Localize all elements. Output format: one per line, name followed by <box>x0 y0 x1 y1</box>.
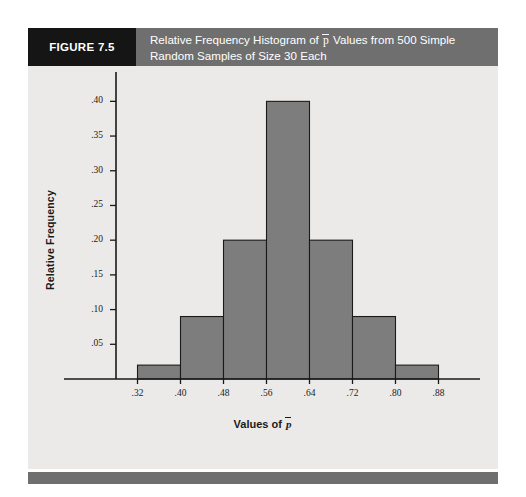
figure-caption-line1-post: Values from 500 Simple <box>330 33 455 46</box>
p-bar-symbol-title: p <box>322 34 330 47</box>
y-tick-label: .05 <box>75 338 103 348</box>
x-axis-title: Values of p <box>28 418 498 430</box>
figure-number-badge: FIGURE 7.5 <box>28 28 136 66</box>
y-tick-label: .30 <box>75 165 103 175</box>
bars-group <box>138 101 439 379</box>
y-tick-label: .20 <box>75 234 103 244</box>
y-tick-label: .15 <box>75 269 103 279</box>
histogram-bar <box>267 101 310 379</box>
histogram-bar <box>396 365 439 379</box>
figure-caption: Relative Frequency Histogram of p Values… <box>136 28 498 66</box>
p-bar-symbol-axis: p <box>285 418 293 430</box>
x-tick-label: .88 <box>424 388 454 398</box>
histogram-bar <box>138 365 181 379</box>
figure-card: FIGURE 7.5 Relative Frequency Histogram … <box>28 28 498 469</box>
y-tick-label: .35 <box>75 130 103 140</box>
x-tick-label: .64 <box>295 388 325 398</box>
x-tick-label: .40 <box>166 388 196 398</box>
histogram-bar <box>224 240 267 379</box>
y-tick-label: .40 <box>75 95 103 105</box>
x-axis-title-text: Values of <box>234 418 282 430</box>
y-tick-label: .10 <box>75 304 103 314</box>
figure-header: FIGURE 7.5 Relative Frequency Histogram … <box>28 28 498 66</box>
figure-caption-line2: Random Samples of Size 30 Each <box>150 49 327 62</box>
histogram-bar <box>353 317 396 379</box>
histogram-bar <box>310 240 353 379</box>
y-tick-label: .25 <box>75 199 103 209</box>
x-tick-label: .80 <box>381 388 411 398</box>
figure-footer-bar <box>28 472 498 484</box>
histogram-svg <box>28 66 498 469</box>
figure-caption-line1-pre: Relative Frequency Histogram of <box>150 33 322 46</box>
x-tick-label: .32 <box>123 388 153 398</box>
histogram-plot: Relative Frequency .05.10.15.20.25.30.35… <box>28 66 498 469</box>
x-tick-label: .72 <box>338 388 368 398</box>
histogram-bar <box>181 317 224 379</box>
x-tick-label: .48 <box>209 388 239 398</box>
x-tick-label: .56 <box>252 388 282 398</box>
